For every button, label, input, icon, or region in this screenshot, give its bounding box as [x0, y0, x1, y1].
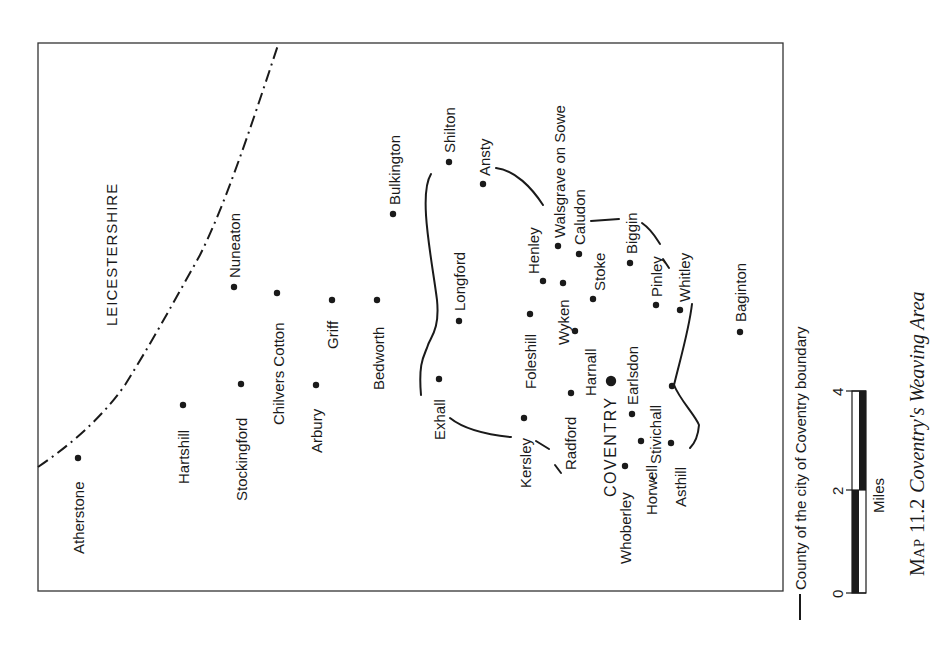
- coventry-city-dot: [606, 376, 616, 386]
- caption-title: Coventry's Weaving Area: [906, 291, 929, 492]
- place-label-ansty: Ansty: [476, 138, 493, 176]
- scale-tick-0: 0: [829, 590, 846, 598]
- place-label-stivichall: Stivichall: [647, 405, 664, 464]
- place-label-griff: Griff: [324, 320, 341, 349]
- place-label-walsgrave: Walsgrave on Sowe: [551, 105, 568, 238]
- place-label-caludon: Caludon: [571, 189, 588, 245]
- place-label-exhall: Exhall: [431, 399, 448, 440]
- place-label-baginton: Baginton: [732, 263, 749, 322]
- place-label-shilton: Shilton: [441, 107, 458, 153]
- place-label-chilvers-cotton: Chilvers Cotton: [270, 322, 287, 425]
- place-label-bulkington: Bulkington: [386, 135, 403, 205]
- scale-unit-label: Miles: [870, 478, 887, 513]
- place-labels: Atherstone Hartshill Stockingford Nuneat…: [70, 105, 749, 564]
- place-label-atherstone: Atherstone: [70, 481, 87, 554]
- place-label-horwell: Horwell: [643, 465, 660, 515]
- place-label-stoke: Stoke: [591, 253, 608, 291]
- place-label-pinley: Pinley: [648, 256, 665, 297]
- place-label-arbury: Arbury: [308, 408, 325, 453]
- caption-number: 11.2: [906, 499, 928, 533]
- place-label-longford: Longford: [451, 252, 468, 311]
- caption-prefix-rest: AP: [911, 539, 927, 558]
- scale-tick-2: 2: [829, 487, 846, 495]
- place-label-henley: Henley: [525, 227, 542, 274]
- place-label-radford: Radford: [562, 417, 579, 470]
- place-label-hartshill: Hartshill: [175, 430, 192, 484]
- caption-prefix-initial: M: [906, 558, 928, 576]
- place-label-harnall: Harnall: [582, 348, 599, 396]
- place-label-earlsdon: Earlsdon: [624, 346, 641, 405]
- legend-boundary-label: County of the city of Coventry boundary: [792, 326, 809, 590]
- place-label-biggin: Biggin: [623, 212, 640, 254]
- svg-text:MAP11.2Coventry's Weaving Area: MAP11.2Coventry's Weaving Area: [906, 291, 929, 576]
- place-label-wyken: Wyken: [555, 299, 572, 345]
- place-label-bedworth: Bedworth: [370, 327, 387, 390]
- scale-tick-4: 4: [829, 388, 846, 396]
- place-label-whoberley: Whoberley: [617, 492, 634, 564]
- map-frame: [38, 43, 783, 591]
- place-label-nuneaton: Nuneaton: [226, 213, 243, 278]
- place-label-asthill: Asthill: [672, 467, 689, 507]
- place-label-stockingford: Stockingford: [233, 418, 250, 501]
- place-label-foleshill: Foleshill: [522, 334, 539, 389]
- place-label-kersley: Kersley: [517, 437, 534, 488]
- weaving-area-map: LEICESTERSHIRE Atherstone Hartshill Stoc…: [0, 0, 936, 646]
- place-label-whitley: Whitley: [676, 252, 693, 302]
- county-label: LEICESTERSHIRE: [103, 183, 120, 326]
- scale-bar: [846, 391, 866, 593]
- city-label-coventry: COVENTRY: [602, 396, 619, 497]
- place-dots: [75, 159, 743, 469]
- map-caption: MAP11.2Coventry's Weaving Area: [906, 291, 929, 576]
